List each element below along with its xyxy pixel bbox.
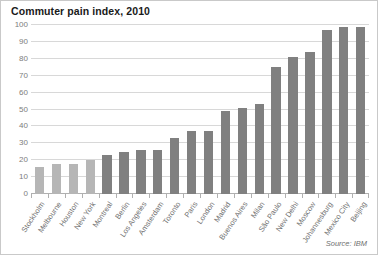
bar-slot bbox=[217, 25, 234, 194]
bar-slot bbox=[285, 25, 302, 194]
x-axis-tick bbox=[318, 194, 319, 198]
bar-slot bbox=[251, 25, 268, 194]
bar bbox=[305, 52, 314, 194]
bar-slot bbox=[200, 25, 217, 194]
chart-figure: Commuter pain index, 2010 01020304050607… bbox=[0, 0, 378, 255]
bar bbox=[204, 131, 213, 194]
bar-slot bbox=[99, 25, 116, 194]
y-axis-tick-label: 10 bbox=[19, 172, 28, 181]
x-axis-slot: Toronto bbox=[166, 194, 183, 254]
y-axis-tick-label: 90 bbox=[19, 36, 28, 45]
x-axis-tick bbox=[166, 194, 167, 198]
bar bbox=[288, 57, 297, 194]
bar bbox=[35, 167, 44, 194]
bar bbox=[339, 27, 348, 194]
x-axis-tick bbox=[285, 194, 286, 198]
bar bbox=[322, 30, 331, 194]
bar bbox=[86, 160, 95, 194]
bar bbox=[52, 164, 61, 194]
bar-series bbox=[31, 25, 369, 194]
y-axis-tick-label: 80 bbox=[19, 53, 28, 62]
bar bbox=[187, 131, 196, 194]
page-title: Commuter pain index, 2010 bbox=[11, 5, 150, 17]
x-axis: StockholmMelbourneHoustonNew YorkMontrea… bbox=[31, 194, 369, 254]
bar bbox=[119, 152, 128, 194]
x-axis-tick bbox=[82, 194, 83, 198]
x-axis-slot: Paris bbox=[183, 194, 200, 254]
bar-slot bbox=[318, 25, 335, 194]
x-axis-tick bbox=[183, 194, 184, 198]
plot-area: 0102030405060708090100 bbox=[31, 25, 369, 194]
x-axis-slot: Buenos Aires bbox=[234, 194, 251, 254]
x-axis-tick bbox=[335, 194, 336, 198]
x-axis-tick bbox=[65, 194, 66, 198]
bar bbox=[153, 150, 162, 194]
x-axis-tick bbox=[48, 194, 49, 198]
bar-slot bbox=[82, 25, 99, 194]
y-axis-tick-label: 50 bbox=[19, 104, 28, 113]
y-axis-tick-label: 60 bbox=[19, 87, 28, 96]
x-axis-slot: Montreal bbox=[99, 194, 116, 254]
bar bbox=[238, 108, 247, 194]
bar bbox=[356, 27, 365, 194]
bar-slot bbox=[132, 25, 149, 194]
x-axis-tick bbox=[99, 194, 100, 198]
bar-slot bbox=[116, 25, 133, 194]
x-axis-tick bbox=[132, 194, 133, 198]
bar bbox=[102, 155, 111, 194]
y-axis-tick-label: 20 bbox=[19, 155, 28, 164]
bar-slot bbox=[48, 25, 65, 194]
x-axis-tick bbox=[234, 194, 235, 198]
bar-slot bbox=[352, 25, 369, 194]
y-axis-tick-label: 100 bbox=[15, 20, 28, 29]
bar bbox=[255, 104, 264, 194]
x-axis-tick bbox=[149, 194, 150, 198]
x-axis-slot: London bbox=[200, 194, 217, 254]
bar-slot bbox=[65, 25, 82, 194]
bar-slot bbox=[183, 25, 200, 194]
y-axis-tick-label: 30 bbox=[19, 138, 28, 147]
x-axis-tick bbox=[302, 194, 303, 198]
x-axis-tick bbox=[268, 194, 269, 198]
x-axis-tick bbox=[200, 194, 201, 198]
x-axis-tick bbox=[217, 194, 218, 198]
bar bbox=[271, 67, 280, 194]
bar-slot bbox=[268, 25, 285, 194]
x-axis-tick bbox=[31, 194, 32, 198]
bar-slot bbox=[234, 25, 251, 194]
bar bbox=[170, 138, 179, 194]
x-axis-slot: Amsterdam bbox=[149, 194, 166, 254]
bar-slot bbox=[335, 25, 352, 194]
x-axis-tick bbox=[251, 194, 252, 198]
bar-slot bbox=[166, 25, 183, 194]
bar bbox=[221, 111, 230, 194]
x-axis-tick bbox=[368, 194, 369, 198]
bar bbox=[69, 164, 78, 194]
x-axis-tick bbox=[352, 194, 353, 198]
x-axis-tick bbox=[116, 194, 117, 198]
bar-slot bbox=[302, 25, 319, 194]
y-axis-tick-label: 70 bbox=[19, 70, 28, 79]
y-axis-tick-label: 0 bbox=[24, 189, 28, 198]
source-note: Source: IBM bbox=[326, 239, 367, 248]
bar-slot bbox=[31, 25, 48, 194]
bar bbox=[136, 150, 145, 194]
bar-slot bbox=[149, 25, 166, 194]
y-axis-tick-label: 40 bbox=[19, 121, 28, 130]
